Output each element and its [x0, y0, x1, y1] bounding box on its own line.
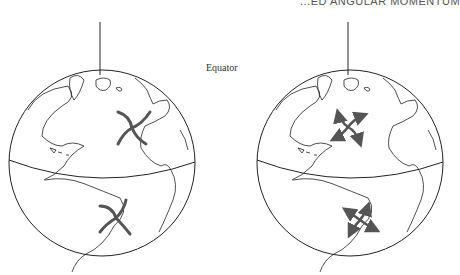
- right-globe: [257, 22, 443, 272]
- left-globe: [9, 22, 195, 272]
